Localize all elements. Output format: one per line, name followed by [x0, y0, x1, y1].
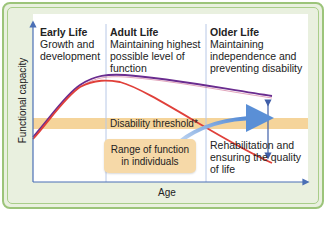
stage-adult-line: Maintaining highest	[110, 38, 200, 50]
upper-curve-highlight	[33, 77, 272, 139]
stage-older: Older Life Maintaining independence and …	[210, 26, 302, 74]
stage-early: Early Life Growth and development	[40, 26, 100, 62]
range-of-function-box: Range of function in individuals	[104, 139, 196, 173]
disability-threshold-label: Disability threshold*	[110, 118, 198, 129]
stage-adult-line: function	[110, 62, 200, 74]
stage-adult: Adult Life Maintaining highest possible …	[110, 26, 200, 74]
range-box-line: Range of function	[104, 144, 196, 156]
rehab-line: Rehabilitation and	[210, 139, 301, 151]
stage-early-heading: Early Life	[40, 26, 100, 38]
rehab-label: Rehabilitation and ensuring the quality …	[210, 139, 301, 175]
stage-adult-heading: Adult Life	[110, 26, 200, 38]
x-axis-label: Age	[158, 187, 176, 198]
rehab-line: ensuring the quality	[210, 151, 301, 163]
stage-older-heading: Older Life	[210, 26, 302, 38]
stage-adult-line: possible level of	[110, 50, 200, 62]
range-box-line: in individuals	[104, 156, 196, 168]
rehab-line: of life	[210, 163, 301, 175]
y-axis-label: Functional capacity	[17, 51, 28, 151]
stage-older-line: Maintaining	[210, 38, 302, 50]
stage-early-line: development	[40, 50, 100, 62]
stage-older-line: independence and	[210, 50, 302, 62]
stage-early-line: Growth and	[40, 38, 100, 50]
stage-older-line: preventing disability	[210, 62, 302, 74]
